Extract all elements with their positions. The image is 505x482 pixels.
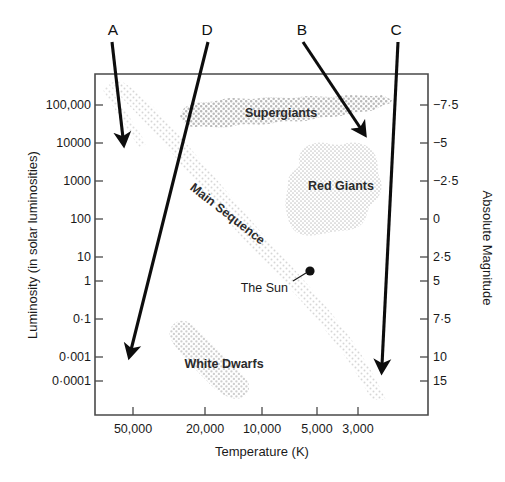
x-axis-tick-labels: 50,000 20,000 10,000 5,000 3,000: [114, 422, 374, 436]
y2-tick-label-minus2-5: −2·5: [433, 174, 458, 188]
y2-tick-label-minus7-5: −7·5: [433, 98, 458, 112]
pointer-label-b: B: [297, 21, 307, 38]
region-label-red-giants: Red Giants: [308, 179, 374, 193]
region-label-supergiants: Supergiants: [245, 106, 317, 120]
y-tick-label-0-001: 0·001: [59, 350, 91, 364]
y-tick-label-0-1: 0·1: [73, 312, 91, 326]
x-tick-label-3000: 3,000: [342, 422, 373, 436]
pointer-label-d: D: [201, 21, 212, 38]
y-tick-label-100000: 100,000: [46, 98, 91, 112]
y2-tick-label-5: 5: [433, 274, 440, 288]
y2-tick-label-minus5: −5: [433, 136, 447, 150]
region-main-sequence: [108, 80, 386, 400]
x-tick-label-20000: 20,000: [186, 422, 224, 436]
y-tick-label-1: 1: [84, 274, 91, 288]
y-tick-label-100: 100: [70, 212, 91, 226]
x-tick-label-10000: 10,000: [243, 422, 281, 436]
region-label-white-dwarfs: White Dwarfs: [184, 357, 263, 371]
pointer-label-c: C: [390, 21, 401, 38]
x-tick-label-5000: 5,000: [301, 422, 332, 436]
x-tick-label-50000: 50,000: [114, 422, 152, 436]
sun-label: The Sun: [241, 281, 288, 295]
x-axis-ticks: [133, 407, 358, 415]
y-axis-right-tick-labels: −7·5 −5 −2·5 0 2·5 5 7·5 10 15: [433, 98, 458, 388]
y-axis-left-ticks: [95, 105, 103, 381]
y-tick-label-10: 10: [77, 250, 91, 264]
pointer-labels: A D B C: [108, 21, 402, 38]
y2-tick-label-2-5: 2·5: [433, 250, 451, 264]
y2-tick-label-0: 0: [433, 212, 440, 226]
y2-tick-label-15: 15: [433, 374, 447, 388]
hr-diagram-canvas: 100,000 10000 1000 100 10 1 0·1 0·001 0·…: [0, 0, 505, 482]
y-axis-right-title: Absolute Magnitude: [480, 191, 495, 306]
pointer-arrow-c: [382, 42, 398, 365]
pointer-label-a: A: [108, 21, 119, 38]
y2-tick-label-7-5: 7·5: [433, 312, 451, 326]
y-axis-right-ticks: [420, 105, 428, 381]
region-label-main-sequence: Main Sequence: [187, 180, 267, 247]
y-tick-label-10000: 10000: [56, 136, 91, 150]
y2-tick-label-10: 10: [433, 350, 447, 364]
hr-diagram-figure: 100,000 10000 1000 100 10 1 0·1 0·001 0·…: [0, 0, 505, 482]
x-axis-title: Temperature (K): [215, 444, 309, 459]
y-axis-left-title: Luminosity (in solar luminosities): [25, 151, 40, 339]
y-tick-label-0-0001: 0·0001: [52, 374, 91, 388]
y-tick-label-1000: 1000: [63, 174, 91, 188]
sun-marker-dot: [305, 266, 314, 275]
y-axis-left-tick-labels: 100,000 10000 1000 100 10 1 0·1 0·001 0·…: [46, 98, 91, 388]
region-shapes: [102, 80, 392, 400]
